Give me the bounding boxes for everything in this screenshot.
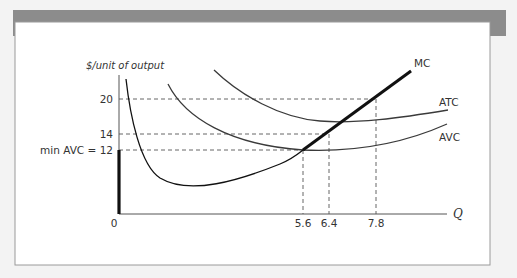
origin-label: 0 [111, 217, 118, 229]
y-axis-label: $/unit of output [86, 60, 165, 71]
y-tick-min-avc: min AVC = 12 [40, 144, 113, 156]
x-axis-label: Q [453, 207, 463, 221]
avc-label: AVC [439, 131, 460, 143]
figure-frame: $/unit of output 20 14 min AVC = 12 0 5.… [0, 0, 517, 278]
mc-label: MC [414, 57, 430, 69]
y-tick-20: 20 [100, 93, 113, 105]
atc-label: ATC [439, 96, 459, 108]
x-tick-7-8: 7.8 [368, 217, 385, 229]
x-tick-6-4: 6.4 [321, 217, 338, 229]
cost-curves-chart: $/unit of output 20 14 min AVC = 12 0 5.… [0, 0, 517, 278]
x-tick-5-6: 5.6 [295, 217, 312, 229]
y-tick-14: 14 [100, 128, 114, 140]
